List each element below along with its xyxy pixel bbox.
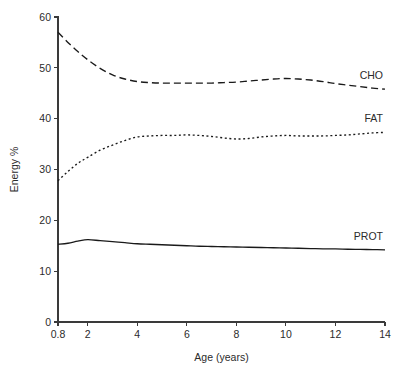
y-tick-label: 20 bbox=[39, 214, 51, 226]
x-tick-label: 8 bbox=[233, 328, 239, 340]
x-axis-title: Age (years) bbox=[194, 351, 248, 363]
y-axis-title: Energy % bbox=[8, 147, 20, 193]
x-tick-label: 12 bbox=[330, 328, 342, 340]
energy-percent-line-chart: 01020304050600.82468101214Age (years)Ene… bbox=[0, 0, 408, 376]
x-tick-label: 0.8 bbox=[51, 328, 66, 340]
series-curve-cho bbox=[58, 32, 385, 89]
x-tick-label: 6 bbox=[184, 328, 190, 340]
x-tick-label: 2 bbox=[85, 328, 91, 340]
series-label-prot: PROT bbox=[354, 230, 384, 242]
y-tick-label: 50 bbox=[39, 62, 51, 74]
x-tick-label: 10 bbox=[280, 328, 292, 340]
x-tick-label: 4 bbox=[134, 328, 140, 340]
y-tick-label: 0 bbox=[45, 316, 51, 328]
y-tick-label: 30 bbox=[39, 163, 51, 175]
y-tick-label: 40 bbox=[39, 112, 51, 124]
series-label-cho: CHO bbox=[360, 69, 383, 81]
y-tick-label: 10 bbox=[39, 265, 51, 277]
series-label-fat: FAT bbox=[365, 112, 384, 124]
series-curve-prot bbox=[58, 240, 385, 250]
series-curve-fat bbox=[58, 132, 385, 180]
chart-plot-area: 01020304050600.82468101214Age (years)Ene… bbox=[0, 0, 408, 376]
x-tick-label: 14 bbox=[379, 328, 391, 340]
y-tick-label: 60 bbox=[39, 11, 51, 23]
